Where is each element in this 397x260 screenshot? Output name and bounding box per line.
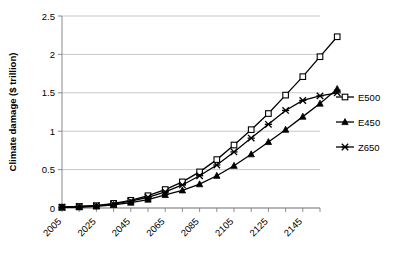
- legend-label-e450: E450: [358, 117, 380, 128]
- series-e500-point-marker: [283, 92, 289, 98]
- series-e500-point-marker: [300, 74, 306, 80]
- legend-label-z650: Z650: [358, 142, 380, 153]
- series-e500-point-marker: [231, 142, 237, 148]
- y-tick-label: 0: [50, 203, 55, 214]
- y-tick-label: 2.5: [42, 11, 55, 22]
- series-e500-point-marker: [334, 34, 340, 40]
- series-e500-point-marker: [266, 111, 272, 117]
- series-e500-point-marker: [214, 157, 220, 163]
- series-e500-point-marker: [248, 127, 254, 133]
- climate-damage-line-chart: 00.511.522.5 200520252045206520852105212…: [0, 0, 397, 260]
- y-tick-label: 1.5: [42, 87, 55, 98]
- y-axis-title: Climate damage ($ trillion): [7, 53, 18, 172]
- y-tick-label: 2: [50, 49, 55, 60]
- y-tick-label: 1: [50, 126, 55, 137]
- series-e500-point-marker: [317, 54, 323, 60]
- legend-label-e500: E500: [358, 92, 380, 103]
- legend-e500-marker: [342, 94, 348, 100]
- chart-figure: 00.511.522.5 200520252045206520852105212…: [0, 0, 397, 260]
- y-tick-label: 0.5: [42, 164, 55, 175]
